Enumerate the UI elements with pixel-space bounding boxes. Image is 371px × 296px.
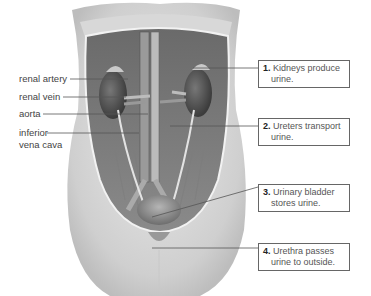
callout-urinary-bladder: 3. Urinary bladder stores urine. <box>258 184 350 212</box>
label-ivc-line2: vena cava <box>19 139 62 150</box>
callout-kidneys: 1. Kidneys produce urine. <box>258 60 350 88</box>
callout-urethra: 4. Urethra passes urine to outside. <box>258 243 350 271</box>
callout-number: 1. <box>263 63 271 73</box>
callout-text-line1: Urethra passes <box>273 246 334 256</box>
callout-text-line2: urine. <box>263 132 346 143</box>
label-inferior-vena-cava: inferior vena cava <box>19 127 62 151</box>
callout-text-line1: Ureters transport <box>273 121 341 131</box>
callout-number: 4. <box>263 246 271 256</box>
callout-ureters: 2. Ureters transport urine. <box>258 118 350 146</box>
callout-number: 3. <box>263 187 271 197</box>
callout-number: 2. <box>263 121 271 131</box>
callout-text-line1: Kidneys produce <box>273 63 340 73</box>
callout-text-line2: urine. <box>263 74 346 85</box>
label-aorta: aorta <box>19 108 41 120</box>
label-renal-vein: renal vein <box>19 91 60 103</box>
callout-text-line1: Urinary bladder <box>273 187 335 197</box>
label-renal-artery: renal artery <box>19 73 67 85</box>
label-ivc-line1: inferior <box>19 127 48 138</box>
callout-text-line2: stores urine. <box>263 198 346 209</box>
callout-text-line2: urine to outside. <box>263 257 346 268</box>
